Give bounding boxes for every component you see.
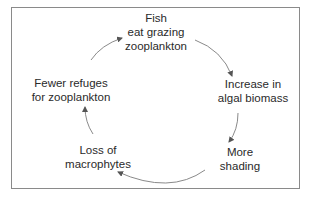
node-shading-line-1: More (220, 145, 260, 159)
node-algal-line-2: algal biomass (218, 91, 288, 105)
node-fewer-refuges: Fewer refuges for zooplankton (32, 76, 111, 104)
node-algal-biomass: Increase in algal biomass (218, 77, 288, 105)
arrow-refuges-to-fish (91, 38, 122, 60)
node-refuges-line-2: for zooplankton (32, 90, 111, 104)
node-fish: Fish eat grazing zooplankton (125, 11, 187, 53)
node-more-shading: More shading (220, 145, 260, 173)
node-fish-line-2: eat grazing (125, 25, 187, 39)
node-fish-line-1: Fish (125, 11, 187, 25)
arrow-fish-to-algal (195, 40, 232, 76)
node-refuges-line-1: Fewer refuges (32, 76, 111, 90)
arrow-algal-to-shading (229, 113, 238, 142)
node-fish-line-3: zooplankton (125, 39, 187, 53)
node-algal-line-1: Increase in (218, 77, 288, 91)
node-macrophytes-line-1: Loss of (65, 143, 131, 157)
arrow-macrophytes-to-refuges (85, 107, 93, 134)
arrow-shading-to-macrophytes (118, 170, 205, 183)
node-loss-of-macrophytes: Loss of macrophytes (65, 143, 131, 171)
node-shading-line-2: shading (220, 159, 260, 173)
node-macrophytes-line-2: macrophytes (65, 157, 131, 171)
